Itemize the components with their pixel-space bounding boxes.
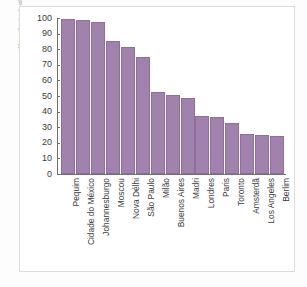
bar[interactable] <box>151 92 165 174</box>
bar-slot <box>195 18 209 174</box>
y-axis-tick-label: 100 <box>37 13 52 23</box>
chart-figure: Allmaps/Arquivo da editora 0102030405060… <box>0 0 307 287</box>
x-label-slot: Amsterdã <box>241 178 255 270</box>
bar-slot <box>210 18 224 174</box>
x-label-slot: Cidade do México <box>76 178 90 270</box>
y-axis-tick-label: 40 <box>42 106 52 116</box>
bar-slot <box>121 18 135 174</box>
bar[interactable] <box>136 57 150 174</box>
bar-slot <box>255 18 269 174</box>
bar-slot <box>76 18 90 174</box>
x-label-slot: Milão <box>151 178 165 270</box>
y-axis-tick-label: 50 <box>42 91 52 101</box>
bar-slot <box>61 18 75 174</box>
plot-area: 0102030405060708090100 <box>57 18 285 174</box>
y-axis-tick-label: 80 <box>42 44 52 54</box>
x-label-slot: Toronto <box>226 178 240 270</box>
y-axis-tick-label: 10 <box>42 153 52 163</box>
bar-slot <box>106 18 120 174</box>
x-axis-line <box>57 174 286 175</box>
bar-series <box>58 18 285 174</box>
y-axis-tick-label: 70 <box>42 59 52 69</box>
x-label-slot: Berlim <box>271 178 285 270</box>
bar-slot <box>225 18 239 174</box>
y-axis-tick-label: 0 <box>47 169 52 179</box>
bar-slot <box>136 18 150 174</box>
y-axis-tick-label: 30 <box>42 122 52 132</box>
bar-slot <box>151 18 165 174</box>
bar[interactable] <box>166 95 180 174</box>
bar-slot <box>270 18 284 174</box>
bar-slot <box>181 18 195 174</box>
x-label-slot: Londres <box>196 178 210 270</box>
x-axis-category-labels: PequimCidade do MéxicoJohannesburgoMosco… <box>58 178 286 270</box>
x-label-slot: Madri <box>181 178 195 270</box>
x-label-slot: Johannesburgo <box>91 178 105 270</box>
x-label-slot: Buenos Aires <box>166 178 180 270</box>
x-label-slot: Los Angeles <box>256 178 270 270</box>
bar[interactable] <box>255 135 269 174</box>
bar[interactable] <box>91 22 105 174</box>
y-axis-tick-label: 20 <box>42 137 52 147</box>
bar[interactable] <box>106 41 120 174</box>
bar-slot <box>240 18 254 174</box>
x-label-slot: Pequim <box>61 178 75 270</box>
bar[interactable] <box>225 123 239 174</box>
y-axis-tick-label: 90 <box>42 28 52 38</box>
bar[interactable] <box>240 134 254 174</box>
bar[interactable] <box>76 20 90 174</box>
bar[interactable] <box>181 98 195 174</box>
bar-slot <box>91 18 105 174</box>
bar[interactable] <box>121 47 135 174</box>
x-label-slot: Paris <box>211 178 225 270</box>
bar[interactable] <box>270 136 284 174</box>
bar[interactable] <box>61 19 75 174</box>
y-axis-tick-label: 60 <box>42 75 52 85</box>
bar[interactable] <box>210 117 224 174</box>
bar-slot <box>166 18 180 174</box>
x-label-slot: Nova Délhi <box>121 178 135 270</box>
x-axis-category-label: Berlim <box>282 178 291 202</box>
x-label-slot: São Paulo <box>136 178 150 270</box>
x-label-slot: Moscou <box>106 178 120 270</box>
bar[interactable] <box>195 116 209 174</box>
